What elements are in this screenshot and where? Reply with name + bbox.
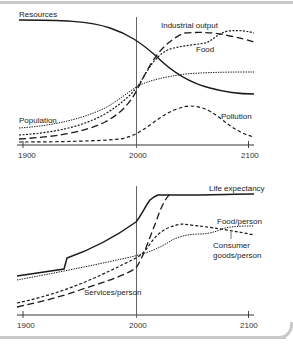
bottom-chart: Life expectancy Food/person Consumer goo… — [17, 184, 265, 330]
top-tick-label-1900: 1900 — [18, 151, 36, 160]
label-services-person: Services/person — [84, 288, 141, 297]
label-life-expectancy: Life expectancy — [209, 184, 265, 193]
label-consumer-goods-1: Consumer — [213, 241, 250, 250]
charts-canvas: Resources Industrial output Food Populat… — [0, 0, 293, 353]
series-life-expectancy — [17, 194, 254, 276]
bottom-tick-label-1900: 1900 — [17, 321, 35, 330]
label-consumer-goods-2: goods/person — [213, 251, 261, 260]
bottom-tick-label-2000: 2000 — [129, 321, 147, 330]
label-industrial-output: Industrial output — [161, 21, 219, 30]
top-chart: Resources Industrial output Food Populat… — [17, 10, 259, 160]
bottom-tick-label-2100: 2100 — [240, 321, 258, 330]
label-population: Population — [19, 116, 57, 125]
top-tick-label-2100: 2100 — [241, 151, 259, 160]
label-food-person: Food/person — [217, 217, 262, 226]
label-food: Food — [196, 45, 214, 54]
top-tick-label-2000: 2000 — [129, 151, 147, 160]
label-resources: Resources — [19, 10, 57, 19]
label-pollution: Pollution — [221, 112, 252, 121]
